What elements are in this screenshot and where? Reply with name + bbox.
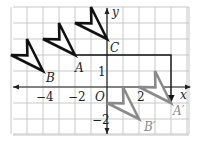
x-axis-label: x: [180, 88, 187, 102]
origin-label: O: [95, 90, 105, 104]
point-label-c: C: [110, 41, 119, 55]
coordinate-diagram: −4 −2 O 2 1 −2 x y A B C A′ B′: [0, 0, 199, 146]
x-tick-label: −4: [36, 90, 54, 104]
y-axis-label: y: [111, 5, 119, 19]
point-label-a-prime: A′: [172, 104, 185, 118]
x-axis-left-arrow-icon: [13, 85, 19, 90]
x-tick-label: 2: [137, 90, 145, 104]
x-tick-label: −2: [68, 90, 86, 104]
point-label-b: B: [45, 71, 55, 85]
y-axis-down-arrow-icon: [105, 128, 110, 134]
y-axis-up-arrow-icon: [105, 8, 110, 14]
point-label-b-prime: B′: [143, 120, 156, 134]
y-tick-label: −2: [92, 113, 110, 127]
point-label-a: A: [74, 61, 84, 75]
y-tick-label: 1: [98, 65, 106, 79]
